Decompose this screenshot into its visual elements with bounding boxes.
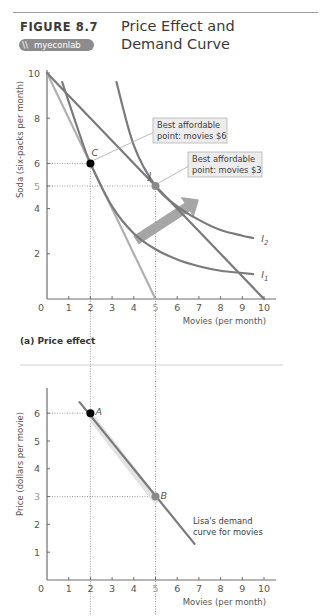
x-tick-label: 8 xyxy=(218,583,224,594)
y-tick-label: 1 xyxy=(34,547,40,558)
y-tick-label: 2 xyxy=(34,248,40,259)
x-tick-label: 6 xyxy=(174,583,180,594)
y-axis-label: Price (dollars per movie) xyxy=(15,412,25,516)
x-axis-label: Movies (per month) xyxy=(183,597,266,607)
y-tick-label: 3 xyxy=(34,491,40,502)
point-b xyxy=(152,493,160,501)
x-tick-label: 0 xyxy=(38,302,44,313)
point-label-b: B xyxy=(161,490,168,501)
point-j xyxy=(152,182,160,190)
y-axis-label: Soda (six-packs per month) xyxy=(15,81,25,198)
x-tick-label: 5 xyxy=(152,583,158,594)
x-tick-label: 3 xyxy=(109,302,115,313)
x-tick-label: 7 xyxy=(196,583,202,594)
panel-label: (a) Price effect xyxy=(20,336,96,346)
x-tick-label: 4 xyxy=(131,302,137,313)
x-tick-label: 1 xyxy=(66,583,72,594)
callout-movies-3-leader xyxy=(159,167,189,184)
y-tick-label: 10 xyxy=(28,68,40,79)
x-tick-label: 4 xyxy=(131,583,137,594)
x-tick-label: 2 xyxy=(87,583,93,594)
callout-movies-3-line1: Best affordable xyxy=(192,154,255,164)
callout-movies-6-line1: Best affordable xyxy=(157,120,220,130)
point-a xyxy=(86,409,94,417)
x-tick-label: 0 xyxy=(38,583,44,594)
y-tick-label: 5 xyxy=(34,436,40,447)
x-tick-label: 9 xyxy=(239,583,245,594)
x-tick-label: 9 xyxy=(239,302,245,313)
series-lisa-s-demand-curve-for-movies xyxy=(80,402,195,544)
y-tick-label: 2 xyxy=(34,519,40,530)
y-tick-label: 6 xyxy=(34,408,40,419)
y-tick-label: 4 xyxy=(34,203,40,214)
point-label-c: C xyxy=(91,147,98,158)
y-tick-label: 6 xyxy=(34,158,40,169)
x-tick-label: 5 xyxy=(152,302,158,313)
figure-charts: 0123456789102456810Movies (per month)Sod… xyxy=(0,0,329,616)
demand-curve-label-line2: curve for movies xyxy=(193,527,263,537)
point-c xyxy=(86,159,94,167)
callout-movies-3-line2: point: movies $3 xyxy=(192,165,262,175)
x-tick-label: 2 xyxy=(87,302,93,313)
x-tick-label: 8 xyxy=(218,302,224,313)
curve-label-i1: I1 xyxy=(261,269,268,283)
x-axis-label: Movies (per month) xyxy=(183,316,266,326)
demand-curve-label-line1: Lisa's demand xyxy=(193,516,253,526)
curve-label-i2: I2 xyxy=(261,233,269,247)
callout-movies-6-leader xyxy=(93,133,153,161)
x-tick-label: 1 xyxy=(66,302,72,313)
point-label-a: A xyxy=(94,406,102,417)
x-tick-label: 10 xyxy=(258,302,270,313)
x-tick-label: 10 xyxy=(258,583,270,594)
series-i1 xyxy=(62,82,253,274)
x-tick-label: 7 xyxy=(196,302,202,313)
x-tick-label: 3 xyxy=(109,583,115,594)
demand-curve-chart: 012345678910123456Movies (per month)Pric… xyxy=(15,388,276,607)
y-tick-label: 8 xyxy=(34,113,40,124)
callout-movies-6-line2: point: movies $6 xyxy=(157,131,227,141)
x-tick-label: 6 xyxy=(174,302,180,313)
y-tick-label: 5 xyxy=(34,181,40,192)
y-tick-label: 4 xyxy=(34,463,40,474)
